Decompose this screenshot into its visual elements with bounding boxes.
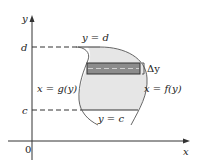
origin-label: 0 <box>25 144 31 155</box>
c-label: c <box>22 105 28 116</box>
bottom-boundary-label: y = c <box>97 113 124 124</box>
top-boundary-label: y = d <box>81 32 109 43</box>
left-curve-label: x = g(y) <box>37 83 77 94</box>
d-label: d <box>21 42 27 53</box>
region-between-curves-diagram: y x 0 d c y = d y = c x = g(y) x = f(y) … <box>0 0 197 165</box>
x-axis-arrow-icon <box>183 139 190 144</box>
y-axis-arrow-icon <box>30 15 35 22</box>
y-axis-label: y <box>21 13 28 24</box>
shaded-region <box>79 47 147 110</box>
right-curve-label: x = f(y) <box>144 83 182 94</box>
x-axis-label: x <box>183 146 189 157</box>
delta-y-label: Δy <box>147 63 160 74</box>
